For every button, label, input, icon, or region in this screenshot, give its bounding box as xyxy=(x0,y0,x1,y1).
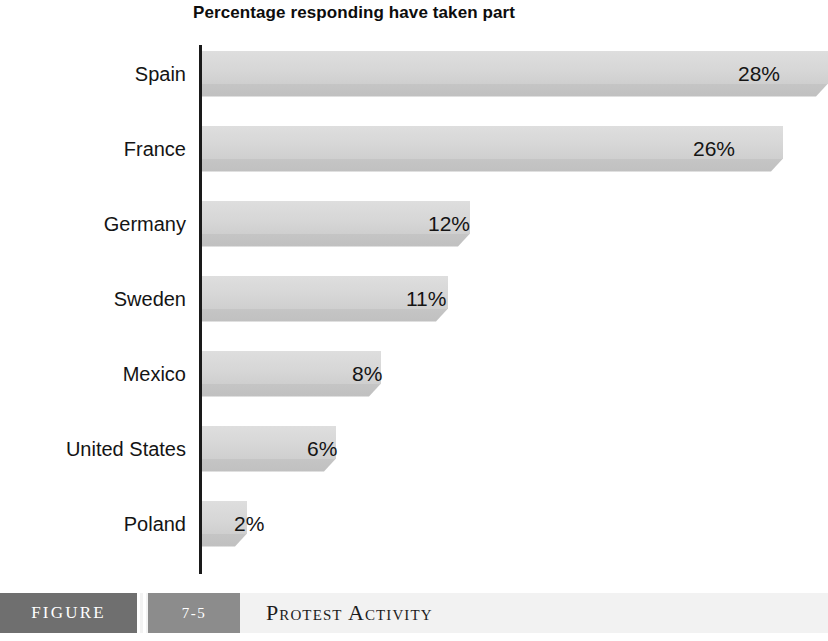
figure-caption-title: Protest Activity xyxy=(266,593,433,633)
bar-top-face xyxy=(202,51,828,84)
bar-row: Poland 2% xyxy=(0,486,828,561)
bar-value-label: 6% xyxy=(307,437,337,461)
figure-number-label: 7-5 xyxy=(182,605,207,622)
bar-row: United States 6% xyxy=(0,411,828,486)
category-label: United States xyxy=(0,437,186,460)
category-label: France xyxy=(0,137,186,160)
bar-spain[interactable] xyxy=(202,51,828,97)
category-label: Poland xyxy=(0,512,186,535)
figure-word-label: Figure xyxy=(31,603,106,623)
bar-value-label: 26% xyxy=(693,137,735,161)
category-label: Spain xyxy=(0,62,186,85)
figure-caption-bar: Figure 7-5 Protest Activity xyxy=(0,593,828,633)
bar-row: Spain 28% xyxy=(0,36,828,111)
bar-bottom-face xyxy=(202,84,828,97)
category-label: Mexico xyxy=(0,362,186,385)
chart-plot-area: Spain 28% France 26% Germany 12% Sw xyxy=(0,36,828,581)
caption-divider xyxy=(143,593,146,633)
bar-value-label: 2% xyxy=(234,512,264,536)
bar-value-label: 8% xyxy=(352,362,382,386)
bar-row: France 26% xyxy=(0,111,828,186)
bar-value-label: 11% xyxy=(406,287,446,311)
bar-value-label: 12% xyxy=(428,212,470,236)
category-label: Sweden xyxy=(0,287,186,310)
caption-divider xyxy=(137,593,140,633)
figure-container: Percentage responding have taken part Sp… xyxy=(0,0,828,585)
figure-number-tag: 7-5 xyxy=(148,593,240,633)
bar-row: Germany 12% xyxy=(0,186,828,261)
chart-title: Percentage responding have taken part xyxy=(0,3,828,23)
figure-word-tag: Figure xyxy=(0,593,137,633)
bar-row: Mexico 8% xyxy=(0,336,828,411)
bar-value-label: 28% xyxy=(738,62,780,86)
category-label: Germany xyxy=(0,212,186,235)
bar-row: Sweden 11% xyxy=(0,261,828,336)
